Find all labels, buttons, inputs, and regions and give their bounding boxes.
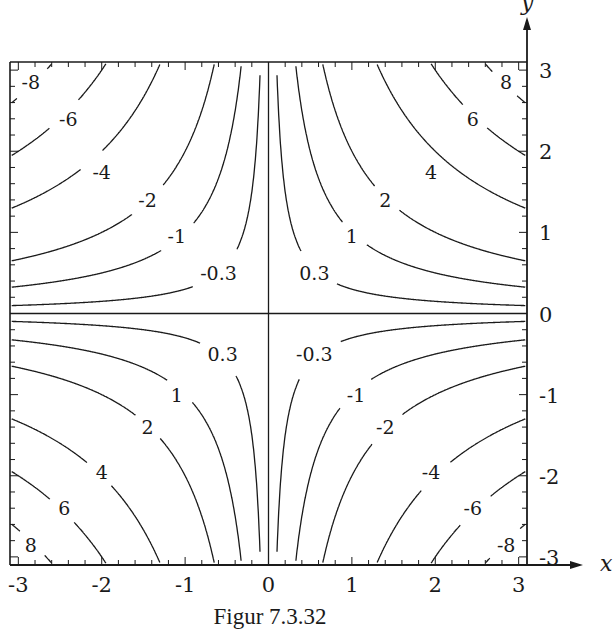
contour-label: 1 [346,225,358,247]
contour-label: -8 [497,534,516,556]
y-tick-label: 0 [539,303,552,327]
contour-label: -2 [138,189,157,211]
contour-line [323,64,375,186]
contour-label: -8 [22,71,41,93]
contour-label: -1 [347,384,366,406]
contour-label: 6 [467,108,479,130]
contour-line [277,75,301,251]
contour-label: 2 [142,416,154,438]
x-axis-label: x [600,551,613,576]
contour-plot: -8-6-4-2-1-0.30.3124680.3-0.31-12-24-46-… [0,0,615,636]
contour-line [12,287,193,306]
contour-label: 8 [25,534,37,556]
contour-line [402,366,525,414]
contour-line [236,376,260,552]
y-axis-label: y [520,0,534,15]
contour-line [12,524,20,531]
contour-line [12,214,132,260]
figure-caption: Figur 7.3.32 [0,604,540,630]
contour-line [12,366,136,415]
contour-line [367,245,525,287]
y-tick-label: -3 [539,546,559,570]
contour-line [237,75,260,249]
contour-label: 4 [425,161,437,183]
contour-line [323,444,372,562]
contour-label: 2 [379,189,391,211]
contour-label: -6 [464,497,483,519]
contour-line [520,524,525,528]
contour-line [277,379,299,551]
contour-label: -4 [92,161,111,183]
contour-line [487,128,525,155]
contour-line [341,321,526,341]
contour-line [337,284,525,306]
y-tick-label: 2 [539,140,552,164]
contour-line [12,419,87,463]
x-tick-label: 0 [262,573,275,597]
contour-line [160,439,214,563]
x-tick-label: 3 [512,573,525,597]
contour-line [12,128,50,155]
contour-line [45,555,52,563]
contour-line [12,472,50,500]
contour-line [12,321,200,343]
x-tick-label: -3 [8,573,28,597]
contour-line [296,66,343,222]
contour-line [192,402,241,561]
contour-line [194,66,242,223]
contour-line [103,65,160,151]
y-axis-arrow-icon [523,17,531,30]
contour-label: 0.3 [208,343,238,365]
contour-line [12,340,167,380]
contour-line [79,64,106,100]
contour-line [377,491,421,563]
contour-line [74,522,106,563]
x-tick-label: -2 [91,573,111,597]
contour-label: 1 [171,384,183,406]
contour-label: -1 [168,225,187,247]
contour-label: -6 [59,108,78,130]
contour-line [486,64,493,72]
contour-label: -0.3 [200,262,237,284]
contour-line [47,64,51,69]
x-tick-label: 1 [345,573,358,597]
contour-line [111,486,159,563]
contour-label: -2 [376,416,395,438]
contour-line [486,558,490,563]
contour-label: 8 [500,71,512,93]
contour-line [517,96,525,103]
contour-line [491,472,526,497]
x-tick-label: -1 [175,573,195,597]
contour-line [371,340,525,380]
y-tick-label: -2 [539,465,559,489]
contour-line [163,64,214,185]
contour-line [12,170,81,209]
contour-line [12,98,17,102]
contour-line [431,64,463,105]
y-tick-label: 3 [539,59,552,83]
contour-label: -0.3 [296,343,333,365]
contour-line [296,408,340,561]
y-tick-label: -1 [539,384,559,408]
contour-line [431,525,460,563]
contour-line [399,210,525,261]
contour-label: 4 [96,461,108,483]
x-tick-label: 2 [429,573,442,597]
contour-line [450,419,525,462]
contour-label: 0.3 [299,262,329,284]
contour-label: 6 [58,497,70,519]
y-tick-label: 1 [539,221,552,245]
contour-label: -4 [422,461,441,483]
x-axis-arrow-icon [570,561,583,569]
